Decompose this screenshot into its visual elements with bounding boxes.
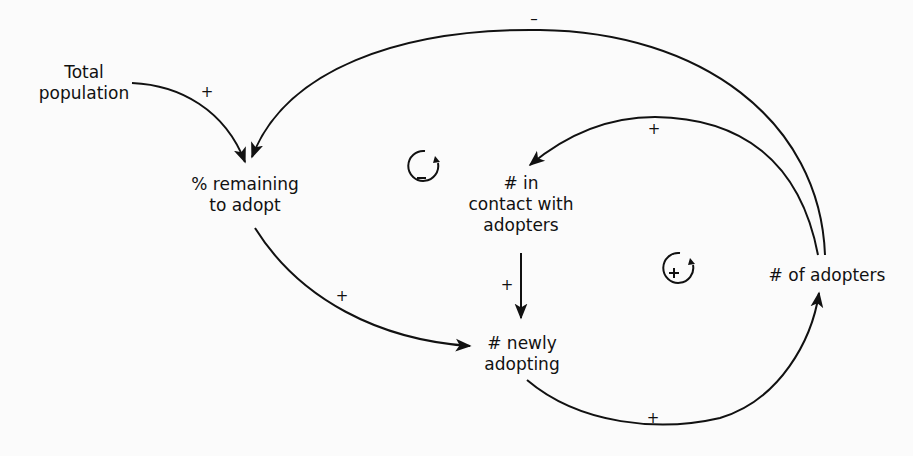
reinforcing-loop-icon: [663, 253, 695, 283]
node-label-line: contact with: [468, 194, 573, 215]
balancing-loop-icon: [408, 151, 440, 181]
polarity-adopters-to-contact: +: [648, 122, 661, 137]
link-newly-to-adopters: [527, 293, 819, 424]
node-label-line: # newly: [484, 333, 559, 354]
link-remaining-to-newly: [255, 228, 470, 346]
node-label-line: adopters: [468, 215, 573, 236]
node-label-line: adopting: [484, 354, 559, 375]
node-newly-adopting: # newly adopting: [484, 333, 559, 375]
node-total-population: Total population: [39, 62, 129, 104]
polarity-newly-to-adopters: +: [647, 411, 660, 426]
polarity-contact-to-newly: +: [501, 278, 514, 293]
node-percent-remaining: % remaining to adopt: [191, 174, 298, 216]
causal-loop-diagram: [0, 0, 913, 456]
link-total-to-remaining: [132, 83, 245, 162]
polarity-adopters-to-remaining: –: [530, 12, 538, 27]
node-label-line: # in: [468, 173, 573, 194]
node-label-line: # of adopters: [769, 265, 886, 286]
node-in-contact: # in contact with adopters: [468, 173, 573, 236]
node-label-line: population: [39, 83, 129, 104]
node-label-line: Total: [39, 62, 129, 83]
node-label-line: % remaining: [191, 174, 298, 195]
node-of-adopters: # of adopters: [769, 265, 886, 286]
polarity-remaining-to-newly: +: [336, 289, 349, 304]
node-label-line: to adopt: [191, 195, 298, 216]
polarity-total-to-remaining: +: [201, 85, 214, 100]
